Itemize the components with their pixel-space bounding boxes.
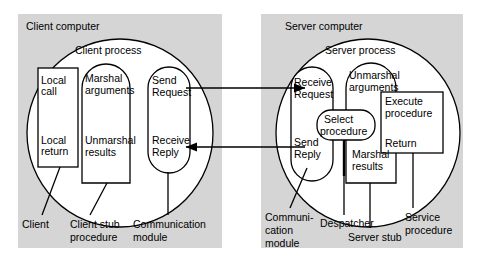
client-unmarshal-line2: results	[85, 146, 116, 158]
caption-client-stub-line1: Client stub	[70, 218, 120, 230]
caption-client-stub-line2: procedure	[70, 231, 117, 243]
caption-server-comm-line1: Communi-	[265, 211, 314, 223]
execute-procedure-line1: Execute	[385, 95, 423, 107]
caption-server-comm-line2: cation	[265, 224, 293, 236]
client-unmarshal-line1: Unmarshal	[85, 134, 136, 146]
diagram-canvas: Client computer Client process Local cal…	[0, 0, 479, 267]
receive-reply-line1: Receive	[152, 134, 190, 146]
receive-reply-line2: Reply	[152, 146, 180, 158]
server-unmarshal-line1: Unmarshal	[349, 69, 400, 81]
caption-despatcher: Despatcher	[320, 217, 374, 229]
local-call-line2: call	[41, 85, 57, 97]
server-marshal-line2: results	[352, 160, 383, 172]
client-marshal-line1: Marshal	[85, 72, 122, 84]
caption-service-procedure-line1: Service	[405, 211, 440, 223]
execute-procedure-line2: procedure	[385, 107, 432, 119]
client-process-title: Client process	[75, 44, 142, 56]
send-request-line2: Request	[152, 86, 191, 98]
receive-request-line1: Receive	[294, 76, 332, 88]
rpc-diagram-figure: Client computer Client process Local cal…	[0, 0, 479, 267]
return-label: Return	[385, 137, 417, 149]
send-request-line1: Send	[152, 74, 177, 86]
server-unmarshal-line2: arguments	[349, 81, 399, 93]
caption-server-stub: Server stub	[348, 231, 402, 243]
caption-client-comm-line2: module	[133, 231, 168, 243]
client-computer-panel: Client computer Client process Local cal…	[18, 14, 222, 248]
local-return-line2: return	[41, 145, 69, 157]
server-process-title: Server process	[325, 44, 396, 56]
send-reply-line2: Reply	[294, 148, 322, 160]
server-computer-title: Server computer	[285, 20, 363, 32]
client-marshal-line2: arguments	[85, 84, 135, 96]
caption-client: Client	[22, 218, 49, 230]
receive-request-line2: Request	[294, 88, 333, 100]
server-computer-panel: Server computer Server process Receive R…	[261, 14, 463, 249]
send-reply-line1: Send	[294, 136, 319, 148]
select-procedure-line1: Select	[324, 113, 353, 125]
caption-client-comm-line1: Communication	[133, 218, 206, 230]
server-marshal-line1: Marshal	[352, 148, 389, 160]
select-procedure-line2: procedure	[320, 125, 367, 137]
caption-service-procedure-line2: procedure	[405, 224, 452, 236]
caption-server-comm-line3: module	[265, 237, 300, 249]
client-computer-title: Client computer	[26, 20, 100, 32]
